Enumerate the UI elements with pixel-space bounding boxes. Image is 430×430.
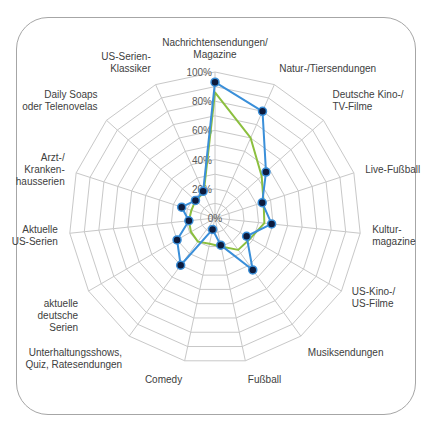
data-point-marker	[268, 220, 276, 228]
tick-label: 40%	[192, 155, 212, 166]
axis-label: Unterhaltungsshows,Quiz, Ratesendungen	[25, 347, 122, 370]
axis-label: aktuelledeutscheSerien	[38, 298, 79, 333]
axis-label: Live-Fußball	[365, 164, 420, 175]
data-point-marker	[178, 203, 186, 211]
axis-label: Nachrichtensendungen/Magazine	[162, 37, 268, 60]
data-point-marker	[185, 217, 193, 225]
data-point-marker	[243, 232, 251, 240]
axis-label: AktuelleUS-Serien	[12, 224, 59, 247]
data-point-marker	[249, 266, 257, 274]
tick-label: 0%	[208, 213, 223, 224]
tick-label: 100%	[186, 67, 212, 78]
data-point-marker	[262, 168, 270, 176]
data-point-marker	[191, 196, 199, 204]
axis-label: Deutsche Kino-/TV-Filme	[332, 89, 403, 112]
data-point-marker	[211, 78, 219, 86]
axis-label: Comedy	[145, 374, 182, 385]
data-point-marker	[217, 241, 225, 249]
data-point-marker	[199, 187, 207, 195]
axis-label: Daily Soapsoder Telenovelas	[22, 89, 97, 112]
radar-chart: 0%20%40%60%80%100% Nachrichtensendungen/…	[0, 0, 430, 430]
data-point-marker	[209, 225, 217, 233]
data-point-marker	[173, 236, 181, 244]
axis-label: Natur-/Tiersendungen	[279, 63, 376, 74]
axis-label: Arzt-/Kranken-hausserien	[16, 152, 65, 187]
data-point-marker	[258, 199, 266, 207]
tick-label: 80%	[192, 96, 212, 107]
axis-label: Kultur-magazine	[372, 224, 416, 247]
axis-label: Musiksendungen	[308, 347, 384, 358]
data-point-marker	[177, 261, 185, 269]
axis-label: Fußball	[248, 374, 281, 385]
data-point-marker	[259, 107, 267, 115]
axis-label: US-Serien-Klassiker	[101, 51, 151, 74]
axis-label: US-Kino-/US-Filme	[352, 286, 396, 309]
